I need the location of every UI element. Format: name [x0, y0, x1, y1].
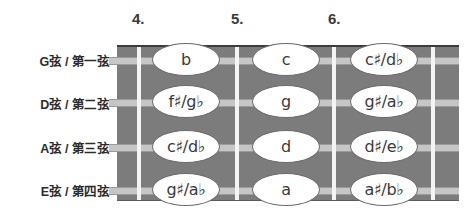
note-e-pos4: g♯/a♭	[152, 173, 220, 206]
position-label-4: 4.	[132, 10, 145, 27]
note-d-pos5: g	[252, 85, 320, 118]
note-a-pos5: d	[252, 130, 320, 163]
note-d-pos6: g♯/a♭	[350, 85, 418, 118]
note-d-pos4: f♯/g♭	[152, 85, 220, 118]
string-label-e: E弦 / 第四弦	[4, 181, 110, 200]
string-label-d: D弦 / 第二弦	[4, 94, 110, 113]
note-a-pos4: c♯/d♭	[152, 130, 220, 163]
fret-line	[235, 47, 239, 200]
fret-line	[431, 47, 435, 200]
position-label-6: 6.	[328, 10, 341, 27]
string-label-g: G弦 / 第一弦	[4, 51, 110, 70]
note-g-pos6: c♯/d♭	[350, 43, 418, 76]
fret-line	[332, 47, 336, 200]
note-e-pos6: a♯/b♭	[350, 173, 418, 206]
position-label-5: 5.	[231, 10, 244, 27]
note-g-pos4: b	[152, 43, 220, 76]
note-e-pos5: a	[252, 173, 320, 206]
fret-line	[137, 47, 141, 200]
note-a-pos6: d♯/e♭	[350, 130, 418, 163]
string-label-a: A弦 / 第三弦	[4, 138, 110, 157]
note-g-pos5: c	[252, 43, 320, 76]
